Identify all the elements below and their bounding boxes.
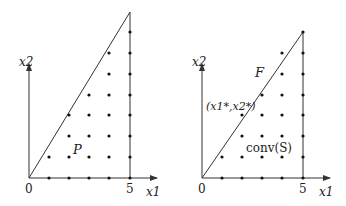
right-tick-5: 5 bbox=[299, 183, 307, 195]
left-tick-5: 5 bbox=[126, 183, 134, 195]
conv-s-label: conv(S) bbox=[246, 142, 292, 154]
right-x1-label: x1 bbox=[319, 186, 333, 198]
right-x2-label: x2 bbox=[192, 56, 206, 68]
left-x1-label: x1 bbox=[146, 186, 160, 198]
face-f-label: F bbox=[255, 66, 264, 79]
left-panel bbox=[29, 12, 157, 180]
right-tick-0: 0 bbox=[198, 183, 206, 195]
left-x2-label: x2 bbox=[19, 56, 33, 68]
region-p-label: P bbox=[73, 143, 82, 156]
left-tick-0: 0 bbox=[25, 183, 33, 195]
optimum-point-label: (x1*,x2*) bbox=[206, 101, 255, 112]
diagram-canvas bbox=[0, 0, 346, 206]
integer-points bbox=[47, 30, 131, 179]
